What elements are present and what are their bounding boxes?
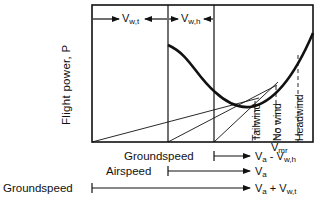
tangent-headwind [214,82,278,142]
groundspeed-head-label: Groundspeed [124,151,194,163]
tangent-tailwind [92,98,259,142]
groundspeed-head-expr: Va - Vw,h [255,151,296,164]
tailwind-label: Tailwind [250,104,262,141]
headwind-label: Headwind [293,94,305,141]
airspeed-expr: Va [255,166,267,179]
no-wind-label: No wind [271,103,283,141]
airspeed-label: Airspeed [106,166,151,178]
power-curve [168,33,313,107]
wind-tail-label: Vw,t [122,13,139,26]
y-axis-label: Flight power, P [60,44,72,125]
wind-head-label: Vw,h [181,13,200,26]
groundspeed-tail-label: Groundspeed [3,183,73,195]
groundspeed-tail-expr: Va + Vw,t [255,183,296,196]
